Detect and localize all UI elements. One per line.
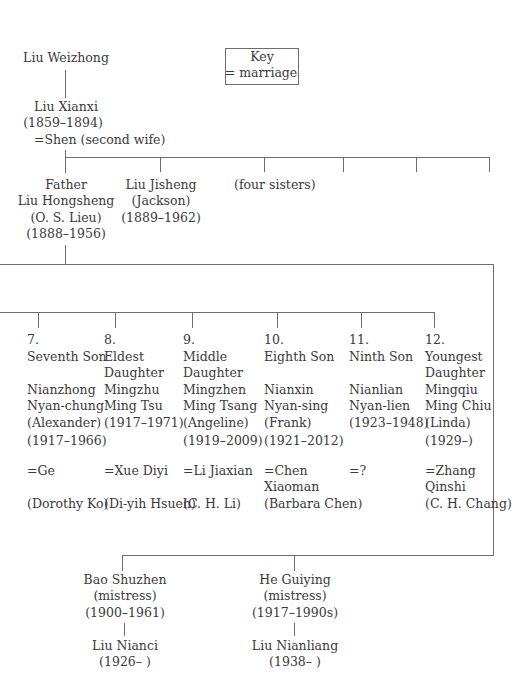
- connector-tick: [160, 157, 161, 172]
- sibling-line: [66, 157, 490, 158]
- child-10: 10. Eighth Son Nianxin Nyan-sing (Frank)…: [264, 332, 362, 512]
- child-role-2: Daughter: [183, 365, 263, 382]
- child-spouse: =Ge: [27, 463, 108, 480]
- mistress-2-child-dates: (1938– ): [269, 654, 321, 671]
- child-11: 11. Ninth Son Nianlian Nyan-lien (1923–1…: [349, 332, 429, 512]
- child-spouse-2: Xiaoman: [264, 479, 362, 496]
- child-name-alt: Ming Tsang: [183, 398, 263, 415]
- connector-line: [65, 70, 66, 98]
- mistress-2-role: (mistress): [263, 588, 326, 605]
- child-spouse-alias: (C. H. Chang): [425, 496, 512, 513]
- child-number: 9.: [183, 332, 263, 349]
- child-alias: (Angeline): [183, 415, 263, 432]
- mistress-2-child-name: Liu Nianliang: [252, 638, 338, 655]
- child-role: Youngest: [425, 349, 512, 366]
- child-spouse-alias: (C. H. Li): [183, 496, 263, 513]
- child-spouse-alias: [349, 496, 429, 513]
- child-dates: (1921–2012): [264, 433, 362, 450]
- child-alias: (1923–1948): [349, 415, 429, 432]
- child-spouse: =?: [349, 463, 429, 480]
- child-12: 12. Youngest Daughter Mingqiu Ming Chiu …: [425, 332, 512, 512]
- brother-dates: (1889–1962): [121, 210, 201, 227]
- mistress-1-role: (mistress): [93, 588, 156, 605]
- child-dates: (1929–): [425, 433, 512, 450]
- root-name: Liu Weizhong: [23, 50, 109, 67]
- mistress-2-dates: (1917–1990s): [252, 605, 338, 622]
- child-dates: (1919–2009): [183, 433, 263, 450]
- child-dates: [349, 433, 429, 450]
- connector-tick: [264, 157, 265, 172]
- child-role-2: [27, 365, 108, 382]
- child-role-2: Daughter: [425, 365, 512, 382]
- grandfather-spouse: =Shen (second wife): [34, 132, 165, 149]
- mistress-1-dates: (1900–1961): [85, 605, 165, 622]
- child-alias: (Alexander): [27, 415, 108, 432]
- brother-name: Liu Jisheng: [125, 177, 196, 194]
- child-spouse-alias: (Barbara Chen): [264, 496, 362, 513]
- child-spouse-2: [183, 479, 263, 496]
- siblings-line: [0, 312, 435, 313]
- child-number: 11.: [349, 332, 429, 349]
- child-name: Mingqiu: [425, 382, 512, 399]
- child-role: Ninth Son: [349, 349, 429, 366]
- child-role-2: [349, 365, 429, 382]
- connector-tick: [115, 312, 116, 328]
- connector-tick: [192, 312, 193, 328]
- mistress-1-child-name: Liu Nianci: [92, 638, 158, 655]
- connector-tick: [277, 312, 278, 328]
- child-number: 7.: [27, 332, 108, 349]
- connector-tick: [122, 555, 123, 571]
- child-spouse: =Li Jiaxian: [183, 463, 263, 480]
- child-name-alt: Nyan-sing: [264, 398, 362, 415]
- mistress-line: [122, 555, 494, 556]
- grandfather-dates: (1859–1894): [23, 115, 103, 132]
- connector-tick: [38, 312, 39, 328]
- connector-line: [124, 623, 125, 636]
- child-spouse: =Chen: [264, 463, 362, 480]
- sisters-label: (four sisters): [234, 177, 316, 194]
- child-dates: (1917–1966): [27, 433, 108, 450]
- child-name: Nianlian: [349, 382, 429, 399]
- child-spouse-2: [27, 479, 108, 496]
- child-spouse-alias: (Dorothy Ko): [27, 496, 108, 513]
- father-alias: (O. S. Lieu): [30, 210, 101, 227]
- connector-tick: [416, 157, 417, 172]
- grandfather-name: Liu Xianxi: [34, 99, 98, 116]
- child-alias: (Linda): [425, 415, 512, 432]
- child-name: Nianzhong: [27, 382, 108, 399]
- connector-tick: [343, 157, 344, 172]
- child-number: 12.: [425, 332, 512, 349]
- child-role: Middle: [183, 349, 263, 366]
- connector-line: [65, 150, 66, 173]
- child-role: Seventh Son: [27, 349, 108, 366]
- child-spouse-2: Qinshi: [425, 479, 512, 496]
- child-name-alt: Nyan-chung: [27, 398, 108, 415]
- connector-tick: [434, 312, 435, 328]
- key-title: Key: [250, 49, 273, 66]
- children-line: [0, 264, 494, 265]
- father-name: Liu Hongsheng: [18, 193, 115, 210]
- father-dates: (1888–1956): [26, 226, 106, 243]
- child-name-alt: Nyan-lien: [349, 398, 429, 415]
- child-number: 10.: [264, 332, 362, 349]
- connector-tick: [361, 312, 362, 328]
- mistress-1-child-dates: (1926– ): [99, 654, 151, 671]
- child-role: Eighth Son: [264, 349, 362, 366]
- child-spouse-2: [349, 479, 429, 496]
- child-spouse: =Zhang: [425, 463, 512, 480]
- child-7: 7. Seventh Son Nianzhong Nyan-chung (Ale…: [27, 332, 108, 496]
- connector-line: [294, 623, 295, 636]
- child-9: 9. Middle Daughter Mingzhen Ming Tsang (…: [183, 332, 263, 496]
- father-role: Father: [45, 177, 87, 194]
- key-legend: = marriage: [225, 65, 298, 82]
- child-alias: (Frank): [264, 415, 362, 432]
- child-role-2: [264, 365, 362, 382]
- mistress-1-name: Bao Shuzhen: [84, 572, 167, 589]
- mistress-2-name: He Guiying: [259, 572, 330, 589]
- connector-tick: [294, 555, 295, 571]
- child-name: Nianxin: [264, 382, 362, 399]
- connector-line: [65, 245, 66, 265]
- connector-tick: [489, 157, 490, 172]
- child-name-alt: Ming Chiu: [425, 398, 512, 415]
- brother-alias: (Jackson): [132, 193, 191, 210]
